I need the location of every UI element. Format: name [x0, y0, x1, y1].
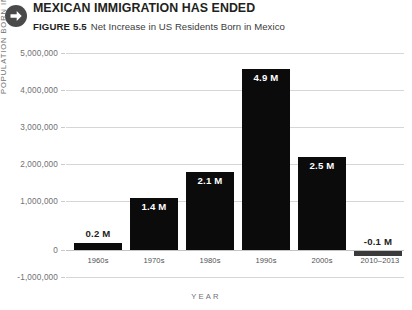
- x-tick-label-2000s: 2000s: [298, 256, 346, 265]
- x-tick-label-1970s: 1970s: [130, 256, 178, 265]
- y-tick-label-1000000: 1,000,000: [0, 197, 58, 206]
- bar-label-1990s: 4.9 M: [242, 72, 290, 83]
- y-tick-mark-1000000: [61, 201, 65, 202]
- gridline-4000000: [66, 90, 404, 91]
- bar-2000s[interactable]: 2.5 M: [298, 157, 346, 250]
- figure-header: MEXICAN IMMIGRATION HAS ENDED FIGURE 5.5…: [0, 0, 412, 44]
- gridline-neg1000000: [66, 277, 404, 278]
- figure-number: FIGURE 5.5: [33, 21, 87, 32]
- page-title: MEXICAN IMMIGRATION HAS ENDED: [33, 1, 285, 16]
- y-tick-label-neg1000000: -1,000,000: [0, 273, 58, 282]
- x-axis-title: YEAR: [0, 292, 412, 301]
- bar-label-2010-2013: -0.1 M: [354, 236, 402, 247]
- bar-1980s[interactable]: 2.1 M: [186, 172, 234, 250]
- gridline-2000000: [66, 164, 404, 165]
- subtitle-row: FIGURE 5.5Net Increase in US Residents B…: [33, 18, 285, 33]
- bar-label-1980s: 2.1 M: [186, 175, 234, 186]
- plot-area: 0.2 M 1.4 M 2.1 M 4.9 M 2.5 M -0.1 M: [66, 53, 404, 277]
- y-tick-mark-5000000: [61, 53, 65, 54]
- bar-1960s[interactable]: [74, 243, 122, 250]
- x-tick-label-1960s: 1960s: [74, 256, 122, 265]
- y-tick-mark-4000000: [61, 90, 65, 91]
- bar-label-1960s: 0.2 M: [74, 228, 122, 239]
- x-tick-label-2010-2013: 2010–2013: [350, 256, 410, 265]
- bar-label-2000s: 2.5 M: [298, 160, 346, 171]
- y-tick-mark-neg1000000: [61, 277, 65, 278]
- x-tick-label-1990s: 1990s: [242, 256, 290, 265]
- y-tick-label-0: 0: [0, 246, 58, 255]
- y-tick-label-2000000: 2,000,000: [0, 160, 58, 169]
- y-tick-mark-3000000: [61, 127, 65, 128]
- x-tick-label-1980s: 1980s: [186, 256, 234, 265]
- bar-1990s[interactable]: 4.9 M: [242, 69, 290, 250]
- y-tick-mark-0: [61, 250, 65, 251]
- gridline-3000000: [66, 127, 404, 128]
- y-tick-mark-2000000: [61, 164, 65, 165]
- bar-1970s[interactable]: 1.4 M: [130, 198, 178, 250]
- y-tick-label-4000000: 4,000,000: [0, 86, 58, 95]
- y-tick-label-3000000: 3,000,000: [0, 123, 58, 132]
- chart-plot-frame: POPULATION BORN IN MEXICO 5,000,000 4,00…: [0, 44, 412, 310]
- gridline-5000000: [66, 53, 404, 54]
- bar-label-1970s: 1.4 M: [130, 201, 178, 212]
- gridline-1000000: [66, 201, 404, 202]
- figure-subtitle: Net Increase in US Residents Born in Mex…: [91, 21, 285, 32]
- y-tick-label-5000000: 5,000,000: [0, 49, 58, 58]
- title-block: MEXICAN IMMIGRATION HAS ENDED FIGURE 5.5…: [33, 1, 285, 33]
